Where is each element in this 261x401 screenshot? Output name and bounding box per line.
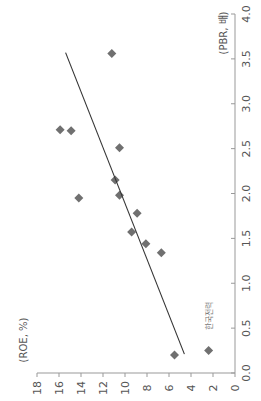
data-points [56, 49, 214, 360]
pbr-tick-label: 4.0 [240, 5, 253, 23]
data-point [204, 346, 213, 355]
data-point [56, 125, 65, 134]
scatter-chart: 한국전력 0.00.51.01.52.02.53.03.54.0 0246810… [0, 0, 261, 401]
pbr-axis-ticks: 0.00.51.01.52.02.53.03.54.0 [231, 5, 253, 382]
pbr-tick-label: 1.0 [240, 275, 253, 293]
data-point [74, 193, 83, 202]
annotations: 한국전력 [204, 302, 214, 330]
pbr-tick-label: 3.0 [240, 95, 253, 113]
point-annotation: 한국전력 [204, 302, 214, 330]
data-point [141, 239, 150, 248]
roe-tick-label: 2 [207, 385, 220, 392]
data-point [107, 49, 116, 58]
roe-tick-label: 0 [229, 385, 242, 392]
trend-line [66, 53, 185, 355]
data-point [115, 143, 124, 152]
pbr-tick-label: 0.0 [240, 364, 253, 382]
pbr-axis-title: (PBR, 배) [218, 11, 229, 54]
roe-tick-label: 12 [97, 381, 110, 395]
pbr-tick-label: 3.5 [240, 50, 253, 68]
roe-tick-label: 4 [185, 385, 198, 392]
data-point [157, 248, 166, 257]
pbr-tick-label: 1.5 [240, 230, 253, 248]
data-point [170, 351, 179, 360]
roe-axis-ticks: 024681012141618 [31, 373, 242, 395]
roe-tick-label: 18 [31, 381, 44, 395]
pbr-tick-label: 0.5 [240, 319, 253, 337]
roe-tick-label: 6 [163, 385, 176, 392]
pbr-tick-label: 2.5 [240, 140, 253, 158]
pbr-tick-label: 2.0 [240, 185, 253, 203]
roe-axis-title: (ROE, %) [18, 318, 29, 363]
roe-tick-label: 16 [53, 381, 66, 395]
roe-tick-label: 14 [75, 381, 88, 395]
data-point [67, 126, 76, 135]
data-point [133, 209, 142, 218]
roe-tick-label: 8 [141, 385, 154, 392]
roe-tick-label: 10 [119, 381, 132, 395]
